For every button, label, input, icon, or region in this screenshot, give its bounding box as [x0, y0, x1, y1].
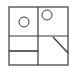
left-circle-icon	[19, 17, 29, 27]
floor-plan-diagram	[0, 0, 77, 68]
diagonal-line	[53, 37, 68, 53]
right-circle-icon	[42, 10, 52, 20]
